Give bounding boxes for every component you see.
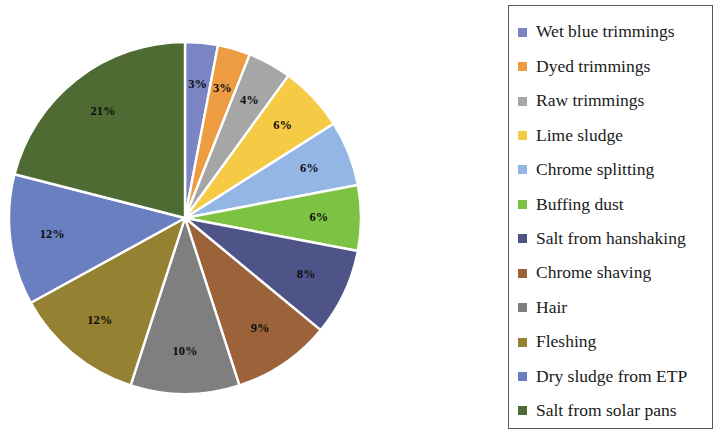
legend-item-label: Wet blue trimmings bbox=[536, 23, 675, 41]
legend-item-label: Dry sludge from ETP bbox=[536, 368, 687, 386]
legend-item[interactable]: Lime sludge bbox=[509, 118, 712, 152]
legend-item[interactable]: Buffing dust bbox=[509, 187, 712, 221]
legend-item-label: Fleshing bbox=[536, 333, 596, 351]
legend-swatch-icon bbox=[518, 131, 527, 140]
legend-item[interactable]: Salt from solar pans bbox=[509, 394, 712, 428]
legend-box: Wet blue trimmingsDyed trimmingsRaw trim… bbox=[508, 5, 713, 429]
legend-item-label: Raw trimmings bbox=[536, 92, 644, 110]
legend-list: Wet blue trimmingsDyed trimmingsRaw trim… bbox=[509, 6, 712, 428]
legend-item-label: Chrome splitting bbox=[536, 161, 654, 179]
legend-item[interactable]: Dyed trimmings bbox=[509, 49, 712, 83]
legend-item[interactable]: Wet blue trimmings bbox=[509, 15, 712, 49]
legend-item[interactable]: Chrome shaving bbox=[509, 256, 712, 290]
legend-swatch-icon bbox=[518, 269, 527, 278]
pie-slice-label: 21% bbox=[91, 104, 116, 118]
legend-item-label: Salt from solar pans bbox=[536, 402, 676, 420]
legend-swatch-icon bbox=[518, 28, 527, 37]
pie-slice-label: 6% bbox=[309, 210, 328, 224]
legend-swatch-icon bbox=[518, 234, 527, 243]
pie-slice-label: 3% bbox=[188, 77, 207, 91]
legend-item[interactable]: Dry sludge from ETP bbox=[509, 359, 712, 393]
pie-slice-label: 4% bbox=[240, 93, 259, 107]
legend-swatch-icon bbox=[518, 372, 527, 381]
pie-slice-label: 12% bbox=[40, 227, 65, 241]
pie-slice-group bbox=[9, 42, 361, 394]
pie-slice-label: 3% bbox=[213, 81, 232, 95]
legend-item[interactable]: Salt from hanshaking bbox=[509, 222, 712, 256]
pie-slice-label: 6% bbox=[300, 161, 319, 175]
legend-item[interactable]: Chrome splitting bbox=[509, 153, 712, 187]
legend-swatch-icon bbox=[518, 165, 527, 174]
pie-slice-label: 6% bbox=[273, 118, 292, 132]
legend-item-label: Lime sludge bbox=[536, 127, 623, 145]
pie-plot-area: 3%3%4%6%6%6%8%9%10%12%12%21% bbox=[0, 0, 500, 438]
legend-swatch-icon bbox=[518, 97, 527, 106]
legend-item-label: Hair bbox=[536, 299, 567, 317]
legend-item[interactable]: Hair bbox=[509, 290, 712, 324]
legend-swatch-icon bbox=[518, 200, 527, 209]
legend-item-label: Chrome shaving bbox=[536, 264, 651, 282]
legend-item-label: Dyed trimmings bbox=[536, 58, 650, 76]
legend-item[interactable]: Raw trimmings bbox=[509, 84, 712, 118]
legend-swatch-icon bbox=[518, 62, 527, 71]
legend-swatch-icon bbox=[518, 338, 527, 347]
pie-slice-label: 12% bbox=[87, 313, 112, 327]
pie-slice-label: 8% bbox=[297, 267, 316, 281]
legend-item[interactable]: Fleshing bbox=[509, 325, 712, 359]
pie-svg: 3%3%4%6%6%6%8%9%10%12%12%21% bbox=[0, 0, 500, 438]
pie-slice-label: 9% bbox=[251, 321, 270, 335]
legend-item-label: Buffing dust bbox=[536, 196, 624, 214]
legend-item-label: Salt from hanshaking bbox=[536, 230, 686, 248]
legend-swatch-icon bbox=[518, 406, 527, 415]
pie-chart-figure: 3%3%4%6%6%6%8%9%10%12%12%21% Wet blue tr… bbox=[0, 0, 717, 438]
pie-slice-label: 10% bbox=[173, 344, 198, 358]
legend-swatch-icon bbox=[518, 303, 527, 312]
